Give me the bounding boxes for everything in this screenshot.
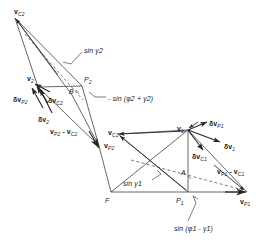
label-sin-gamma1: sin γ1 — [123, 180, 142, 187]
vP2-to-F-segment — [99, 146, 111, 192]
label-dv-C1: δvC1 — [192, 153, 207, 160]
label-v1: v1 — [177, 125, 184, 132]
label-dv-P1: δvP1 — [209, 120, 224, 127]
label-vP2-minus-vC2: vP2 - vC2 — [50, 128, 77, 135]
label-v-C2: vC2 — [14, 8, 25, 15]
sin-gamma2-leader-tick — [63, 62, 71, 64]
label-dv-1: δv1 — [224, 143, 235, 150]
sin-gamma2-leader — [71, 52, 82, 64]
label-sin-gamma2: sin γ2 — [84, 47, 103, 54]
v1-to-vP1-edge — [188, 130, 247, 192]
dv-P1-arrow — [188, 122, 207, 130]
v2-to-P2-bar — [38, 86, 82, 87]
label-v-P1: vP1 — [240, 198, 250, 205]
label-sin-phi2-gamma2: - sin (φ2 + γ2) — [108, 95, 153, 102]
label-dv-C2: δvC2 — [48, 97, 63, 104]
label-B: B — [69, 88, 74, 95]
B-tick — [76, 90, 79, 94]
label-P2: P2 — [84, 76, 92, 83]
A-tick — [188, 176, 191, 179]
label-vP1-minus-vC1: vP1 - vC1 — [217, 168, 244, 175]
label-F: F — [105, 197, 109, 204]
label-P1: P1 — [176, 197, 184, 204]
sin-phi2-leader-tick — [89, 92, 95, 97]
label-v-C1: vC1 — [108, 129, 119, 136]
sin-gamma1-leader — [152, 174, 161, 180]
label-A: A — [181, 169, 186, 176]
label-sin-phi1-gamma1: sin (φ1 - γ1) — [174, 225, 213, 232]
sin-phi1-leader — [188, 203, 196, 221]
velocity-vector-diagram: vC2sin γ2v2P2B- sin (φ2 + γ2)δvP2δvC2δv2… — [0, 0, 269, 243]
label-v-P2: vP2 — [104, 142, 114, 149]
vC1-arrow — [119, 131, 186, 134]
label-v2: v2 — [27, 75, 34, 82]
label-dv-2: δv2 — [38, 116, 49, 123]
label-dv-P2: δvP2 — [13, 96, 28, 103]
sin-gamma1-leader-tick — [157, 170, 161, 174]
vc2-arrow — [16, 19, 58, 75]
